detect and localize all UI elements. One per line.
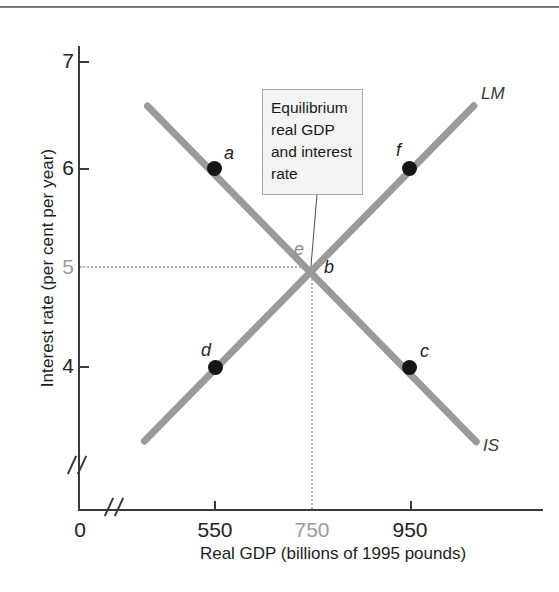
x-axis-line xyxy=(78,509,543,511)
x-tick-550 xyxy=(214,501,216,510)
y-tick-6 xyxy=(80,168,89,170)
x-tick-label-550: 550 xyxy=(180,518,250,542)
data-point-c xyxy=(402,360,417,375)
is-lm-chart-figure: 7 6 5 4 0 550 750 950 Interest rate (per… xyxy=(0,0,559,592)
equilibrium-horizontal-guide xyxy=(80,266,312,268)
equilibrium-callout-box: Equilibrium real GDP and interest rate xyxy=(262,89,363,195)
callout-line-3: and interest xyxy=(271,141,355,163)
y-tick-7 xyxy=(80,61,89,63)
y-axis-title: Interest rate (per cent per year) xyxy=(38,103,58,433)
callout-line-1: Equilibrium xyxy=(271,97,355,119)
x-tick-label-750: 750 xyxy=(277,518,347,542)
equilibrium-vertical-guide xyxy=(311,267,313,509)
data-point-d xyxy=(208,360,223,375)
x-tick-label-0: 0 xyxy=(45,518,115,542)
y-tick-4 xyxy=(80,366,89,368)
callout-line-2: real GDP xyxy=(271,119,355,141)
x-axis-title: Real GDP (billions of 1995 pounds) xyxy=(118,544,548,564)
x-tick-label-950: 950 xyxy=(375,518,445,542)
data-point-label-c: c xyxy=(420,341,429,362)
y-axis-line xyxy=(78,46,80,511)
is-curve-label: IS xyxy=(483,436,499,456)
x-axis-break-mark-2 xyxy=(114,498,124,517)
x-axis-break-mark-1 xyxy=(104,498,114,517)
callout-line-4: rate xyxy=(271,163,355,185)
data-point-label-a: a xyxy=(224,143,234,164)
lm-curve-label: LM xyxy=(481,84,505,104)
data-point-label-f: f xyxy=(396,140,401,161)
x-tick-950 xyxy=(410,501,412,510)
data-point-label-e: e xyxy=(294,239,304,260)
y-axis-break-mark-1 xyxy=(67,456,77,475)
y-tick-label-7: 7 xyxy=(44,49,74,73)
data-point-a xyxy=(207,161,222,176)
data-point-label-d: d xyxy=(201,340,211,361)
data-point-label-b: b xyxy=(324,257,334,278)
data-point-f xyxy=(402,161,417,176)
page-top-rule xyxy=(0,6,559,8)
